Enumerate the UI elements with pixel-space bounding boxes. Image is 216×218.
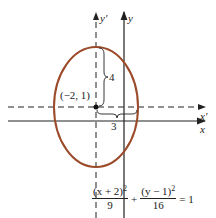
semi-minor-label: 3 [111,120,117,132]
equation-rhs: = 1 [179,193,193,205]
y-label: y [127,12,133,24]
semi-major-label: 4 [109,71,115,83]
equation-term1: (x + 2)2 9 [92,186,128,211]
equation-plus: + [131,193,137,205]
center-point [94,105,99,110]
y-prime-label: y' [99,12,108,24]
brace-vertical-icon [99,48,108,106]
x-prime-label: x' [199,110,208,122]
center-label: (−2, 1) [60,89,90,102]
ellipse-equation: (x + 2)2 9 + (y − 1)2 16 = 1 [92,186,194,211]
brace-horizontal-icon [97,110,137,118]
equation-term2: (y − 1)2 16 [140,186,176,211]
x-label: x [199,123,205,135]
